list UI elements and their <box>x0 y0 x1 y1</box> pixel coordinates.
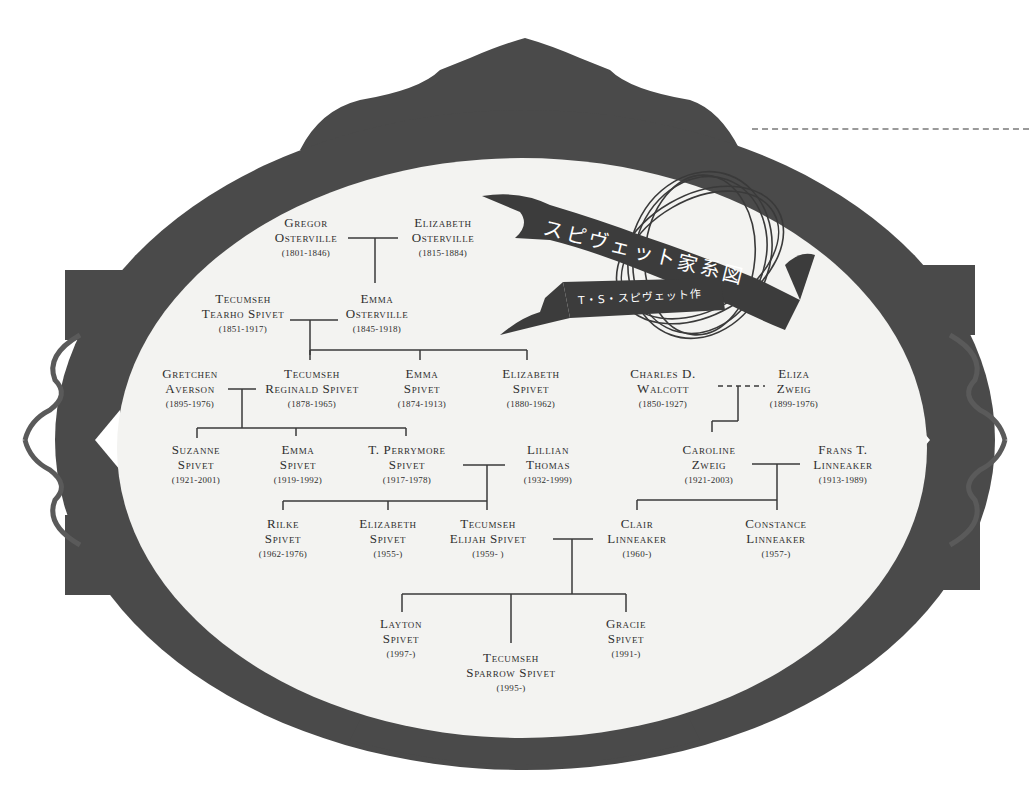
person-gregor-osterville: GregorOsterville(1801-1846) <box>275 216 338 258</box>
person-suzanne-spivet: SuzanneSpivet(1921-2001) <box>172 443 220 485</box>
person-rilke-spivet: RilkeSpivet(1962-1976) <box>259 517 307 559</box>
person-frans-linneaker: Frans T.Linneaker(1913-1989) <box>813 443 872 485</box>
person-constance-linneaker: ConstanceLinneaker(1957-) <box>745 517 806 559</box>
person-eliza-zweig: ElizaZweig(1899-1976) <box>770 367 818 409</box>
family-tree-diagram: スピヴェット家系図 T・S・スピヴェット作 GregorOsterville(1… <box>0 0 1029 804</box>
person-elizabeth-spivet-1955: ElizabethSpivet(1955-) <box>359 517 416 559</box>
person-lillian-thomas: LillianThomas(1932-1999) <box>524 443 572 485</box>
person-caroline-zweig: CarolineZweig(1921-2003) <box>683 443 736 485</box>
person-emma-spivet-1874: EmmaSpivet(1874-1913) <box>398 367 446 409</box>
person-elizabeth-osterville: ElizabethOsterville(1815-1884) <box>412 216 475 258</box>
person-tecumseh-sparrow-spivet: TecumsehSparrow Spivet(1995-) <box>466 651 555 693</box>
person-emma-osterville: EmmaOsterville(1845-1918) <box>346 292 409 334</box>
person-clair-linneaker: ClairLinneaker(1960-) <box>607 517 666 559</box>
person-tecumseh-reginald-spivet: TecumsehReginald Spivet(1878-1965) <box>265 367 359 409</box>
person-elizabeth-spivet-1880: ElizabethSpivet(1880-1962) <box>502 367 559 409</box>
person-charles-walcott: Charles D.Walcott(1850-1927) <box>630 367 696 409</box>
person-emma-spivet-1919: EmmaSpivet(1919-1992) <box>274 443 322 485</box>
person-tecumseh-tearho-spivet: TecumsehTearho Spivet(1851-1917) <box>202 292 285 334</box>
person-gretchen-averson: GretchenAverson(1895-1976) <box>162 367 218 409</box>
person-tecumseh-elijah-spivet: TecumsehElijah Spivet(1959- ) <box>450 517 527 559</box>
person-layton-spivet: LaytonSpivet(1997-) <box>380 617 422 659</box>
person-t-perrymore-spivet: T. PerrymoreSpivet(1917-1978) <box>368 443 445 485</box>
person-gracie-spivet: GracieSpivet(1991-) <box>606 617 646 659</box>
